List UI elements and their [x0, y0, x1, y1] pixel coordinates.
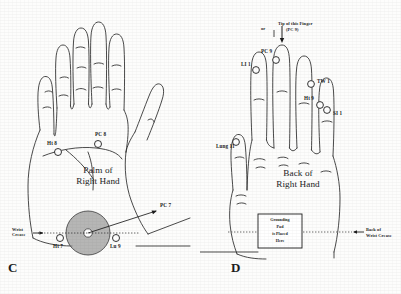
caption-palm-line2: Right Hand [58, 176, 138, 188]
caption-back-line2: Right Hand [258, 179, 338, 191]
panel-letter-c: C [8, 261, 18, 275]
point-ht9-marker [317, 102, 324, 109]
caption-back-line1: Back of [258, 168, 338, 180]
label-pc9: PC 9 [261, 49, 272, 55]
point-ht8-marker [55, 149, 62, 156]
grounding-box-line2: Pad [258, 224, 302, 229]
label-si1: SI 1 [333, 111, 342, 117]
label-lu9: Lu 9 [110, 244, 121, 250]
grounding-box-line1: Grounding [258, 217, 302, 222]
label-pc8: PC 8 [95, 132, 106, 138]
label-wrist-crease-line2: Crease [12, 233, 25, 238]
label-ht8: Ht 8 [47, 141, 57, 147]
grounding-box-line4: Here [258, 238, 302, 243]
figure-canvas: Ht 8 PC 8 Ht 7 Lu 9 PC 7 Wrist Crease Pa… [0, 0, 401, 294]
label-pc7: PC 7 [160, 203, 171, 209]
grounding-box-line3: is Placed [258, 231, 302, 236]
label-tip-of-finger-line2: (PC 9) [286, 28, 299, 33]
point-tw1-marker [308, 81, 315, 88]
point-pc9-marker [273, 57, 280, 64]
point-lu9-marker [113, 235, 120, 242]
caption-palm-line1: Palm of [58, 165, 138, 177]
label-ht7: Ht 7 [53, 244, 63, 250]
label-ht9: Ht 9 [304, 96, 314, 102]
palm-hand-drawing [0, 0, 201, 294]
panel-letter-d: D [231, 261, 241, 275]
panel-c-palm: Ht 8 PC 8 Ht 7 Lu 9 PC 7 Wrist Crease Pa… [0, 0, 201, 294]
panel-d-back: or Tip of this Finger (PC 9) LI 1 PC 9 T… [200, 0, 401, 294]
label-li1: LI 1 [241, 62, 251, 68]
label-lung11: Lung 11 [216, 144, 235, 150]
point-pc8-marker [95, 141, 102, 148]
point-si1-marker [324, 107, 331, 114]
point-li1-marker [253, 67, 260, 74]
label-or: or [261, 27, 265, 32]
point-ht7-marker [57, 235, 64, 242]
label-tw1: TW 1 [317, 79, 330, 85]
label-back-crease-line2: Wrist Crease [366, 234, 392, 239]
